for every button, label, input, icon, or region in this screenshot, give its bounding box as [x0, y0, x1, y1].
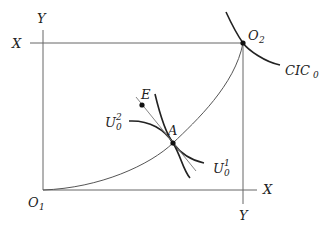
label-y-top-left: Y — [37, 11, 47, 26]
label-u02: U 2 0 — [105, 112, 122, 132]
point-a — [170, 140, 175, 145]
label-cic0: CIC 0 — [285, 63, 319, 80]
label-y-bottom-right: Y — [239, 208, 249, 223]
svg-text:2: 2 — [258, 35, 265, 45]
svg-text:O: O — [248, 28, 259, 43]
price-line — [136, 97, 196, 171]
svg-text:0: 0 — [313, 70, 319, 80]
u1-indifference-curve — [155, 94, 204, 163]
point-e — [139, 102, 144, 107]
label-u01: U 1 0 — [213, 158, 230, 178]
label-x-top-left: X — [11, 36, 22, 51]
svg-text:0: 0 — [116, 122, 122, 132]
label-a: A — [167, 123, 177, 138]
svg-text:2: 2 — [115, 112, 122, 122]
svg-text:O: O — [28, 195, 39, 210]
svg-text:1: 1 — [224, 158, 230, 168]
edgeworth-box-diagram: Y X X Y O 1 O 2 A E CIC 0 U 2 0 U 1 0 — [0, 0, 326, 229]
u2-indifference-curve — [129, 121, 190, 178]
svg-text:0: 0 — [224, 168, 230, 178]
label-x-bottom-right: X — [262, 182, 273, 197]
point-o2 — [240, 40, 245, 45]
svg-text:1: 1 — [39, 202, 45, 212]
label-o2: O 2 — [248, 28, 265, 45]
svg-text:CIC: CIC — [285, 63, 310, 78]
label-o1: O 1 — [28, 195, 45, 212]
label-e: E — [140, 87, 151, 102]
